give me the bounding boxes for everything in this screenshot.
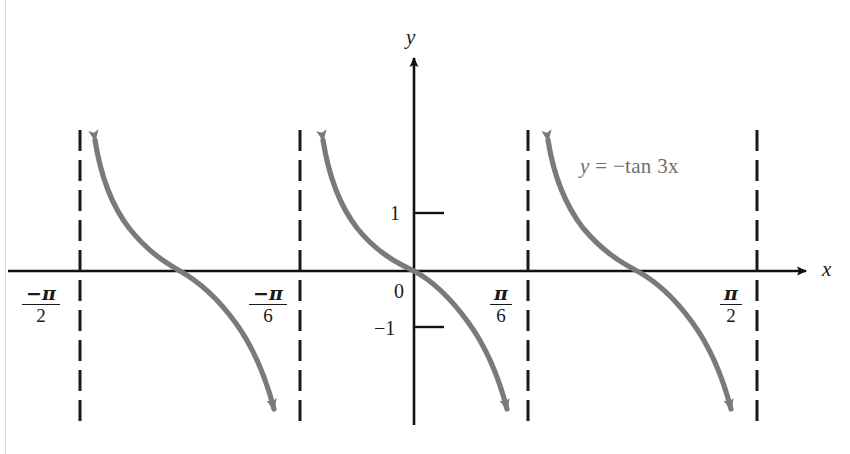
fraction-numerator: −π (249, 284, 287, 305)
y-tick-label-minus-1: −1 (374, 318, 395, 338)
x-axis-label: x (822, 259, 831, 280)
x-tick-label-pi-over-2: π 2 (720, 284, 742, 326)
equation-lhs: y (580, 154, 590, 178)
fraction-denominator: 2 (22, 305, 60, 325)
x-tick-label-pi-over-6: π 6 (490, 284, 512, 326)
equation-annotation: y = −tan 3x (580, 156, 679, 177)
graph-figure: y x 1 −1 0 −π 2 −π 6 π 6 π 2 y = −tan 3x (0, 0, 850, 454)
curve-branch-left (95, 140, 274, 409)
fraction-denominator: 2 (720, 305, 742, 325)
y-axis-label: y (406, 27, 415, 48)
fraction-denominator: 6 (490, 305, 512, 325)
fraction-pi-over-2: π 2 (720, 284, 742, 326)
equation-equals-sign: = (595, 154, 607, 178)
x-tick-label-minus-pi-over-2: −π 2 (22, 284, 60, 326)
y-tick-label-1: 1 (390, 203, 400, 223)
equation-rhs: −tan 3x (613, 154, 679, 178)
fraction-denominator: 6 (249, 305, 287, 325)
curve-branch-right (548, 140, 731, 409)
fraction-numerator: −π (22, 284, 60, 305)
fraction-numerator: π (720, 284, 742, 305)
x-tick-label-minus-pi-over-6: −π 6 (249, 284, 287, 326)
fraction-minus-pi-over-2: −π 2 (22, 284, 60, 326)
plot-canvas (0, 0, 850, 454)
origin-label: 0 (394, 281, 404, 301)
fraction-numerator: π (490, 284, 512, 305)
fraction-minus-pi-over-6: −π 6 (249, 284, 287, 326)
fraction-pi-over-6: π 6 (490, 284, 512, 326)
